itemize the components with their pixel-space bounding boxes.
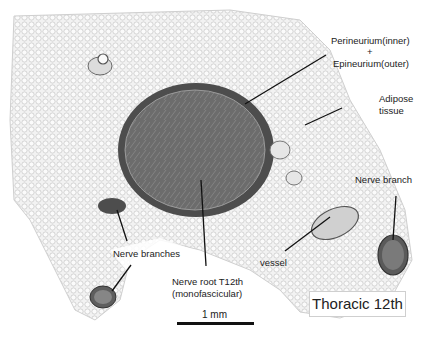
label-nerve-branches: Nerve branches: [113, 248, 180, 259]
label-epineurium: Epineurium(outer): [333, 58, 409, 69]
section-title-box: Thoracic 12th: [309, 291, 406, 317]
label-plus: +: [367, 46, 373, 57]
label-adipose: Adipose: [379, 93, 413, 104]
label-tissue: tissue: [379, 105, 404, 116]
label-nerve-branch: Nerve branch: [355, 174, 412, 185]
label-monofascicular: (monofascicular): [172, 288, 242, 299]
label-perineurium: Perineurium(inner): [331, 35, 410, 46]
label-vessel: vessel: [260, 257, 287, 268]
scale-bar: [177, 322, 254, 325]
scale-bar-label: 1 mm: [202, 309, 227, 320]
nerve-branch-upper: [98, 198, 126, 214]
label-nerve-root: Nerve root T12th: [172, 276, 243, 287]
